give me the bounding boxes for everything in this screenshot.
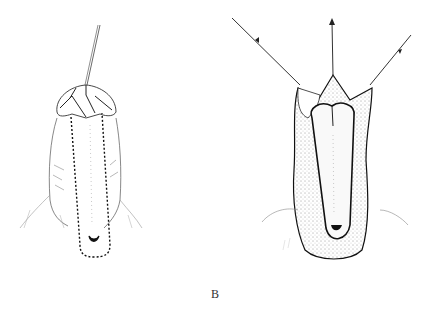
left-drawing <box>20 25 142 257</box>
right-drawing <box>232 18 411 259</box>
panel-label: B <box>211 287 219 302</box>
surgical-illustration <box>0 0 424 314</box>
